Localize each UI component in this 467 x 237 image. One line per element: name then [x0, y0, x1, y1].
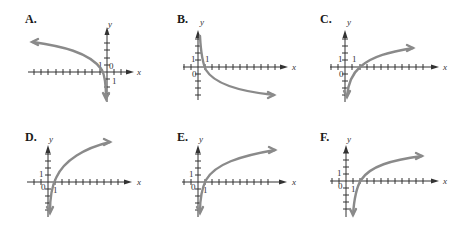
graph-d-y-label: y [48, 134, 53, 144]
graph-f-unit-x: 1 [351, 184, 356, 194]
graph-f-x-label: x [442, 176, 447, 186]
graph-d-plot: y x 1 0 1 [0, 118, 155, 237]
graph-b-curve [200, 36, 274, 95]
graph-f-y-label: y [346, 134, 351, 144]
graph-b-unit-x: 1 [205, 54, 210, 64]
graph-b-origin: 0 [192, 69, 197, 79]
graph-c: C. y x 1 1 0 [310, 0, 467, 118]
graph-f-plot: y x 1 0 1 [310, 118, 467, 237]
graph-e-unit-y: 1 [189, 169, 194, 179]
graph-c-x-label: x [442, 62, 447, 72]
graph-e: E. y x 1 0 1 [155, 118, 310, 237]
graph-b-x-label: x [291, 62, 296, 72]
graph-a-x-label: x [136, 67, 141, 77]
graph-d-origin: 0 [41, 182, 46, 192]
graph-a-origin: 0 [109, 61, 114, 71]
graph-c-curve [347, 48, 413, 96]
graph-b: B. y x 1 1 0 [155, 0, 310, 118]
graph-d-x-label: x [136, 177, 141, 187]
graph-f-curve [353, 156, 422, 215]
graph-a: A. y x 1 0 1 [0, 0, 155, 118]
graph-c-y-label: y [346, 17, 351, 27]
graph-f-unit-y: 1 [337, 168, 342, 178]
graph-a-plot: y x 1 0 1 [0, 0, 155, 118]
graph-b-y-label: y [199, 17, 204, 27]
graph-f: F. y x 1 0 1 [310, 118, 467, 237]
graph-a-unit-x: 1 [112, 76, 117, 86]
graph-e-y-label: y [198, 134, 203, 144]
graph-f-origin: 0 [338, 181, 343, 191]
graph-b-plot: y x 1 1 0 [155, 0, 310, 118]
graph-d-unit-y: 1 [39, 169, 44, 179]
graph-c-origin: 0 [339, 69, 344, 79]
graph-e-plot: y x 1 0 1 [155, 118, 310, 237]
graph-a-y-label: y [107, 19, 112, 29]
graph-d: D. y x 1 0 1 [0, 118, 155, 237]
graph-e-curve [200, 150, 275, 212]
graph-b-unit-y: 1 [191, 54, 196, 64]
graph-c-unit-x: 1 [352, 54, 357, 64]
graph-c-plot: y x 1 1 0 [310, 0, 467, 118]
graph-e-origin: 0 [191, 182, 196, 192]
graph-c-unit-y: 1 [338, 54, 343, 64]
graph-e-x-label: x [291, 177, 296, 187]
graph-d-curve [50, 142, 110, 212]
